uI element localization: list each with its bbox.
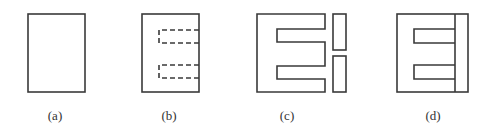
panel-b-dashed-slots <box>142 14 199 92</box>
panel-c-e-and-i-separated <box>257 14 346 92</box>
panel-d-assembled-core <box>397 14 468 92</box>
panel-label-a: (a) <box>48 108 62 124</box>
panel-a-rectangle <box>28 14 85 92</box>
panel-label-d: (d) <box>425 108 440 124</box>
panel-label-c: (c) <box>280 108 294 124</box>
transformer-core-diagram <box>0 0 492 130</box>
panel-label-b: (b) <box>161 108 176 124</box>
